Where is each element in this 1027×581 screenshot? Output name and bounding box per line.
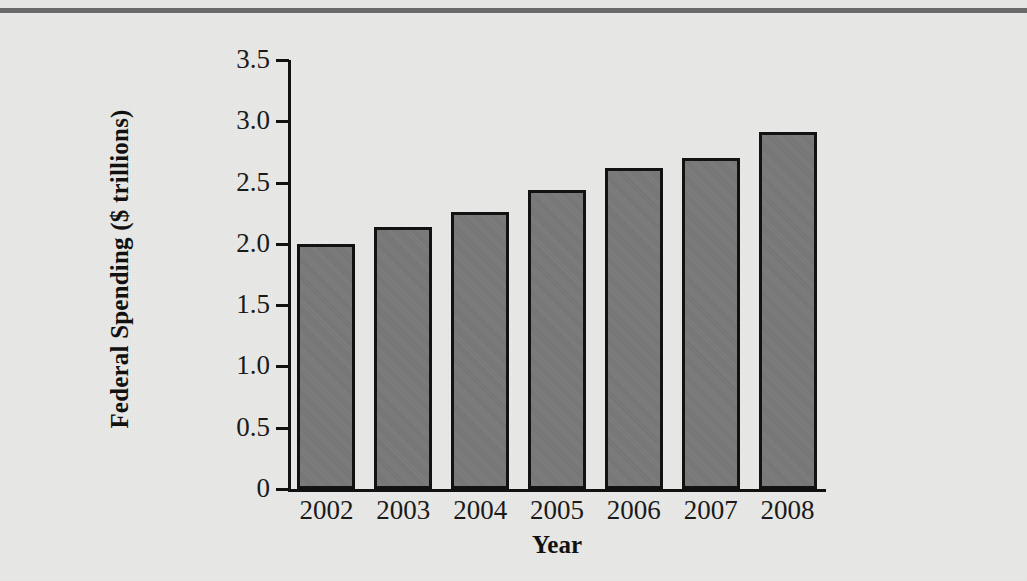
x-axis-title: Year	[288, 531, 826, 559]
bar	[374, 227, 432, 489]
bar	[297, 244, 355, 489]
y-axis-tick-label: 0	[210, 475, 270, 502]
y-axis-tick-label: 3.5	[210, 46, 270, 73]
y-axis-tick-label: 2.5	[210, 169, 270, 196]
bar-group	[442, 60, 519, 489]
bar	[528, 190, 586, 489]
bar-group	[595, 60, 672, 489]
x-axis-line	[288, 489, 826, 492]
bar	[759, 132, 817, 489]
bar	[682, 158, 740, 489]
y-axis-title: Federal Spending ($ trillions)	[106, 79, 134, 459]
bar-group	[519, 60, 596, 489]
bar-group	[749, 60, 826, 489]
bar-group	[365, 60, 442, 489]
y-axis-tick-label: 3.0	[210, 107, 270, 134]
y-axis-tick-label: 1.0	[210, 352, 270, 379]
y-axis-tick-label: 0.5	[210, 414, 270, 441]
x-axis-tick-label: 2008	[733, 497, 843, 524]
bar-chart-figure: Federal Spending ($ trillions) 00.51.01.…	[0, 13, 1027, 581]
bar-group	[288, 60, 365, 489]
bar	[451, 212, 509, 489]
y-axis-tick-label: 2.0	[210, 230, 270, 257]
y-axis-tick-label: 1.5	[210, 291, 270, 318]
bar-group	[672, 60, 749, 489]
y-axis-tick-label-group: 00.51.01.52.02.53.03.5	[200, 13, 270, 581]
bar	[605, 168, 663, 489]
figure-background: Federal Spending ($ trillions) 00.51.01.…	[0, 0, 1027, 581]
bar-series-group	[288, 60, 826, 489]
